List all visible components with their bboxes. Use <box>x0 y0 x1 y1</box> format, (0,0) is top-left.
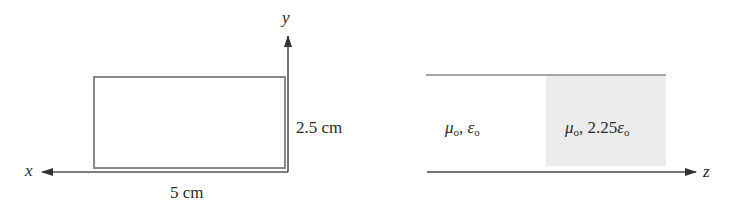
epsilon-symbol: ε <box>617 118 624 137</box>
waveguide-cross-section <box>42 36 288 172</box>
permittivity-coefficient: 2.25 <box>588 118 618 137</box>
z-axis-label: z <box>703 162 710 182</box>
waveguide-rectangle <box>94 77 285 168</box>
dielectric-region-label: μo, 2.25εo <box>565 118 630 138</box>
free-space-region-label: μo, εo <box>445 118 480 138</box>
diagram-canvas <box>0 0 737 209</box>
width-dimension-label: 5 cm <box>170 183 204 203</box>
y-axis-label: y <box>282 8 290 28</box>
height-dimension-label: 2.5 cm <box>296 118 342 138</box>
mu-symbol: μ <box>445 118 454 137</box>
mu-symbol: μ <box>565 118 574 137</box>
x-axis-label: x <box>25 161 33 181</box>
